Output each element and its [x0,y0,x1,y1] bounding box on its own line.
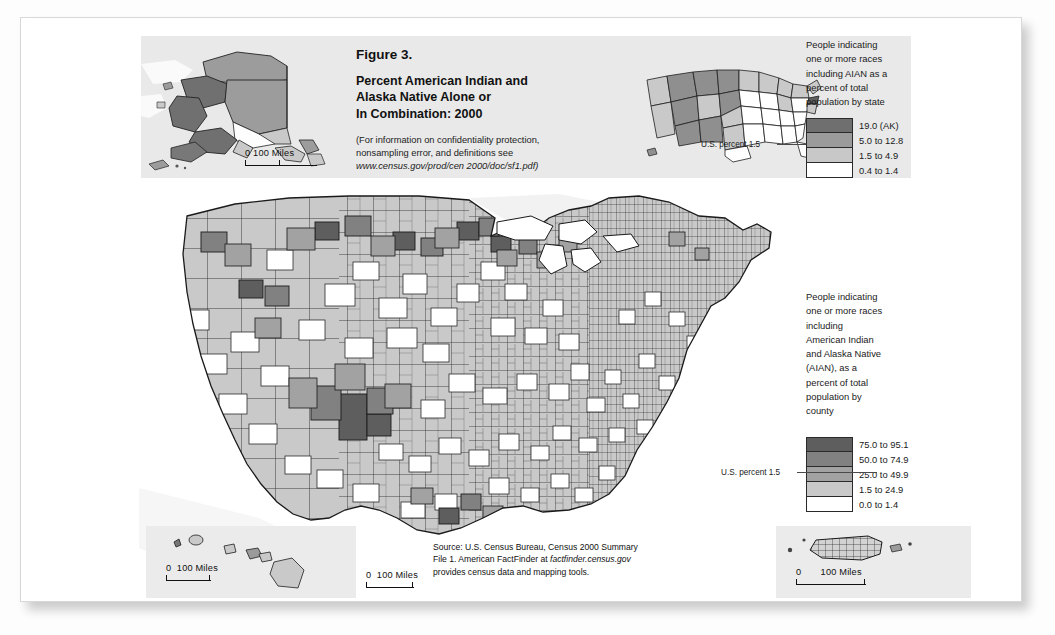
mainland-scale-zero: 0 [366,570,371,580]
state-legend-swatches: 19.0 (AK) 5.0 to 12.8 1.5 to 4.9 0.4 to … [806,118,946,178]
puerto-rico-inset-map [776,526,971,598]
figure-title-line3: In Combination: 2000 [356,107,482,121]
county-legend-chip [806,437,853,452]
county-legend-class: 1.5 to 24.9 [806,482,956,497]
hawaii-scale-distance: 100 Miles [177,563,218,573]
state-legend-title-line2: one or more races [806,52,946,66]
state-legend-title-line5: population by state [806,95,946,109]
mainland-scale-distance: 100 Miles [377,570,418,580]
source-line2-pre: File 1. American FactFinder at [433,554,550,564]
title-block: Figure 3. Percent American Indian and Al… [356,48,631,173]
county-legend-class: 25.0 to 49.9 [806,467,956,482]
county-legend-title-line8: population by [806,390,956,404]
county-legend-title-line1: People indicating [806,290,956,304]
source-factfinder-url[interactable]: factfinder.census.gov [550,554,631,564]
state-legend-title-line4: percent of total [806,81,946,95]
alaska-scale-zero: 0 [245,148,250,158]
hawaii-map-svg [146,526,356,598]
county-us-percent-label: U.S. percent 1.5 [721,468,780,477]
county-legend-title-line2: one or more races [806,304,956,318]
state-legend-class: 0.4 to 1.4 [806,163,946,178]
county-legend-label: 50.0 to 74.9 [859,452,909,467]
alaska-scale-bar: 0 100 Miles [245,148,317,166]
state-legend: People indicating one or more races incl… [806,38,946,178]
county-legend-chip [806,482,853,497]
hawaii-scale-graphic [166,574,256,581]
source-line2: File 1. American FactFinder at factfinde… [433,553,688,565]
county-legend-title-line5: and Alaska Native [806,347,956,361]
state-legend-label: 5.0 to 12.8 [859,133,903,148]
figure-title: Percent American Indian and Alaska Nativ… [356,73,631,123]
county-legend-label: 75.0 to 95.1 [859,437,909,452]
county-legend-chip [806,467,853,482]
source-line3: provides census data and mapping tools. [433,566,688,578]
source-note: Source: U.S. Census Bureau, Census 2000 … [433,541,688,578]
figure-note: (For information on confidentiality prot… [356,134,631,174]
state-legend-title-line3: including AIAN as a [806,67,946,81]
figure-page: 0 100 Miles Figure 3. Percent American I… [0,0,1055,635]
state-legend-label: 1.5 to 4.9 [859,148,898,163]
county-legend-class: 75.0 to 95.1 [806,437,956,452]
figure-number: Figure 3. [356,48,631,63]
state-legend-class: 5.0 to 12.8 [806,133,946,148]
state-legend-class: 1.5 to 4.9 [806,148,946,163]
hawaii-scale-zero: 0 [166,563,171,573]
county-legend: People indicating one or more races incl… [806,290,956,512]
county-legend-chip [806,452,853,467]
county-legend-class: 0.0 to 1.4 [806,497,956,512]
figure-card: 0 100 Miles Figure 3. Percent American I… [20,17,1022,602]
state-legend-chip [806,163,853,178]
county-legend-title-line3: including [806,319,956,333]
county-legend-title: People indicating one or more races incl… [806,290,956,419]
alaska-scale-graphic [245,159,317,166]
state-legend-chip [806,133,853,148]
hawaii-inset-map [146,526,356,598]
source-line1: Source: U.S. Census Bureau, Census 2000 … [433,541,688,553]
county-legend-title-line9: county [806,404,956,418]
county-legend-label: 1.5 to 24.9 [859,482,903,497]
county-legend-label: 0.0 to 1.4 [859,497,898,512]
state-legend-class: 19.0 (AK) [806,118,946,133]
puerto-rico-map-svg [776,526,971,598]
county-legend-title-line4: American Indian [806,333,956,347]
county-legend-swatches: 75.0 to 95.1 50.0 to 74.9 25.0 to 49.9 1… [806,437,956,512]
alaska-scale-distance: 100 Miles [253,148,294,158]
hawaii-scale-bar: 0 100 Miles [166,563,256,581]
state-legend-chip [806,118,853,133]
state-legend-title-line1: People indicating [806,38,946,52]
state-legend-label: 19.0 (AK) [859,118,899,133]
mainland-scale-graphic [366,581,466,588]
county-legend-chip [806,497,853,512]
county-legend-title-line6: (AIAN), as a [806,361,956,375]
alaska-inset-map: 0 100 Miles [141,36,341,178]
puerto-rico-scale-bar: 0 100 Miles [796,567,921,585]
figure-note-url[interactable]: www.census.gov/prod/cen 2000/doc/sf1.pdf… [356,161,538,171]
county-legend-label: 25.0 to 49.9 [859,467,909,482]
state-legend-label: 0.4 to 1.4 [859,163,898,178]
county-legend-title-line7: percent of total [806,376,956,390]
county-legend-class: 50.0 to 74.9 [806,452,956,467]
pr-scale-zero: 0 [796,567,801,577]
state-us-percent-label: U.S. percent 1.5 [701,140,760,149]
figure-note-line2: nonsampling error, and definitions see [356,148,513,158]
county-us-percent-leader-line [797,472,877,473]
header-band: 0 100 Miles Figure 3. Percent American I… [141,36,911,178]
pr-scale-graphic [796,578,921,585]
state-legend-title: People indicating one or more races incl… [806,38,946,109]
figure-title-line1: Percent American Indian and [356,74,528,88]
state-legend-chip [806,148,853,163]
figure-note-line1: (For information on confidentiality prot… [356,135,539,145]
figure-title-line2: Alaska Native Alone or [356,90,491,104]
pr-scale-distance: 100 Miles [821,567,862,577]
